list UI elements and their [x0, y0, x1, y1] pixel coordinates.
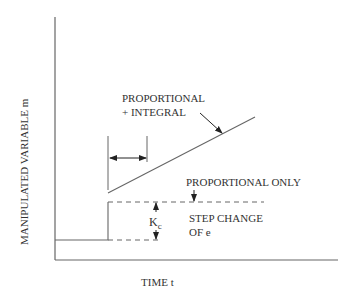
pi-label-line1: PROPORTIONAL	[122, 92, 205, 104]
pi-label-line2: + INTEGRAL	[122, 106, 186, 118]
controller-response-diagram: MANIPULATED VARIABLE m TIME t PROPORTION…	[0, 0, 355, 305]
p-only-label: PROPORTIONAL ONLY	[186, 176, 301, 188]
pi-arrow-icon	[200, 113, 222, 133]
diagram-canvas: MANIPULATED VARIABLE m TIME t PROPORTION…	[0, 0, 355, 305]
y-axis-label: MANIPULATED VARIABLE m	[18, 98, 30, 245]
step-label-line2: OF e	[189, 226, 211, 238]
kc-label: Kc	[149, 215, 162, 231]
response-curve	[55, 202, 108, 240]
step-label-line1: STEP CHANGE	[189, 212, 263, 224]
x-axis-label: TIME t	[141, 276, 174, 288]
